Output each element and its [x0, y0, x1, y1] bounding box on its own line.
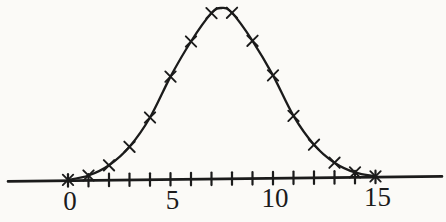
data-point-marker: [165, 71, 175, 81]
data-point-marker: [227, 8, 237, 18]
x-axis-tick-label: 5: [166, 185, 180, 215]
data-point-markers: [63, 8, 381, 186]
data-point-marker: [288, 111, 298, 121]
data-point-marker: [268, 70, 278, 80]
data-point-marker: [145, 112, 155, 122]
bell-curve-chart: 051015: [0, 0, 446, 222]
distribution-curve: [68, 8, 376, 180]
data-point-marker: [104, 160, 114, 170]
distribution-figure: 051015: [0, 0, 446, 222]
curve-path: [68, 8, 376, 180]
data-point-marker: [124, 142, 134, 152]
x-axis-tick-label: 0: [63, 186, 77, 216]
data-point-marker: [186, 36, 196, 46]
data-point-marker: [309, 140, 319, 150]
x-axis-tick-labels: 051015: [63, 182, 391, 216]
x-axis-tick-label: 10: [262, 183, 289, 213]
data-point-marker: [247, 36, 257, 46]
data-point-marker: [206, 8, 216, 18]
data-point-marker: [329, 158, 339, 168]
x-axis-tick-label: 15: [364, 182, 391, 212]
